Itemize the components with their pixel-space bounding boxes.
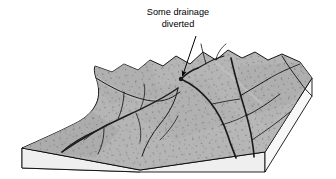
annotation-line-2: diverted (162, 19, 195, 29)
block-diagram-svg: Some drainage diverted (0, 0, 336, 179)
annotation-line-1: Some drainage (147, 7, 209, 17)
block-diagram-figure: Some drainage diverted (0, 0, 336, 179)
capture-point-marker (179, 77, 183, 81)
